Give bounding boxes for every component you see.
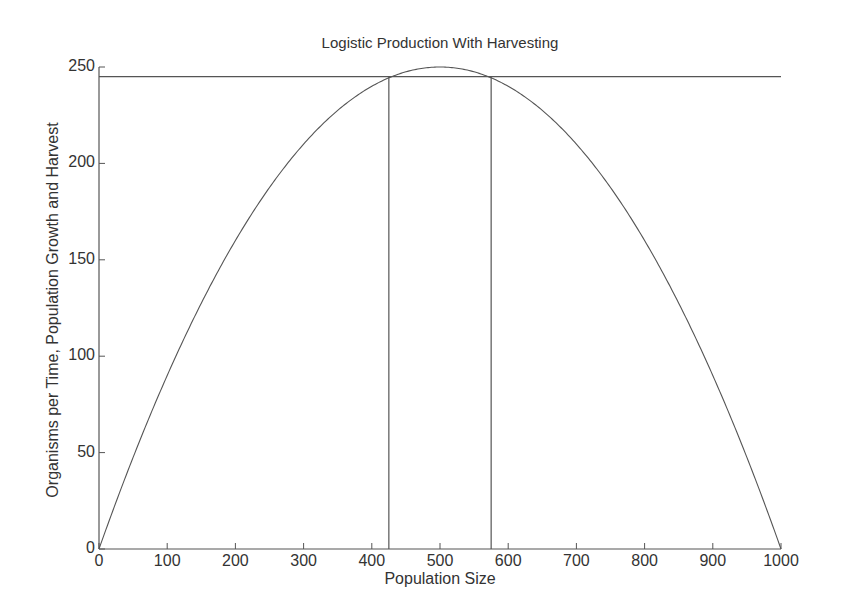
x-tick-label: 0 [95,552,104,569]
y-tick-label: 150 [68,250,95,267]
x-tick-label: 700 [563,552,590,569]
y-tick-label: 50 [77,443,95,460]
y-tick-label: 200 [68,153,95,170]
growth-curve [99,67,781,549]
x-tick-label: 100 [154,552,181,569]
x-axis: 01002003004005006007008009001000 [95,543,799,569]
y-tick-label: 0 [86,539,95,556]
x-tick-label: 1000 [763,552,799,569]
y-tick-label: 250 [68,57,95,74]
chart-title: Logistic Production With Harvesting [322,34,559,51]
x-tick-label: 300 [290,552,317,569]
x-tick-label: 400 [358,552,385,569]
x-tick-label: 500 [427,552,454,569]
plot-area [99,67,781,549]
chart: Logistic Production With Harvesting 0100… [0,0,844,613]
y-axis-label: Organisms per Time, Population Growth an… [44,122,61,498]
x-tick-label: 200 [222,552,249,569]
x-tick-label: 600 [495,552,522,569]
y-axis: 050100150200250 [68,57,105,556]
x-tick-label: 800 [631,552,658,569]
x-axis-label: Population Size [384,570,495,587]
y-tick-label: 100 [68,346,95,363]
x-tick-label: 900 [699,552,726,569]
